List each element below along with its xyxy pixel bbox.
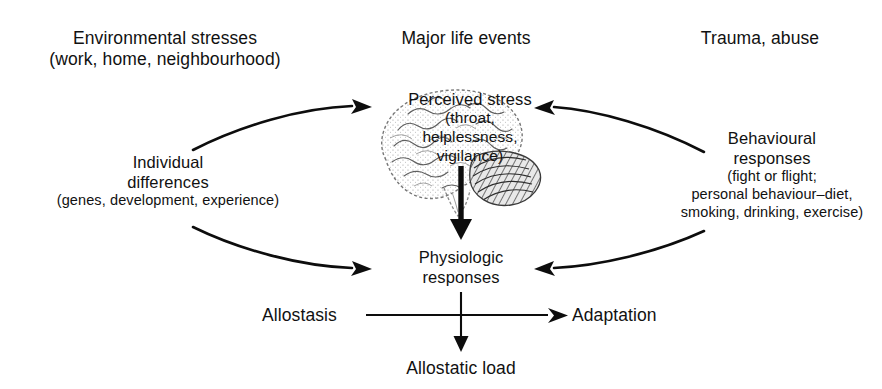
curved-arrow-right-icon xyxy=(193,99,372,150)
thick-down-arrow-icon xyxy=(450,166,472,240)
perceived-stress-label: Perceived stress (throat, helplessness, … xyxy=(408,89,532,166)
behavioural-responses-label: Behavioural responses (fight or flight; … xyxy=(681,128,864,221)
perceived-stress-line2: (throat, xyxy=(408,109,532,128)
trauma-abuse-line1: Trauma, abuse xyxy=(701,28,819,49)
curved-arrow-left-icon xyxy=(534,100,704,152)
major-life-events-line1: Major life events xyxy=(401,28,530,49)
allostatic-load-label: Allostatic load xyxy=(406,358,515,379)
perceived-stress-line3: helplessness, xyxy=(408,128,532,147)
behavioural-responses-line2: responses xyxy=(681,148,864,168)
physiologic-responses-label: Physiologic responses xyxy=(419,247,504,287)
behavioural-responses-line3: (fight or flight; xyxy=(681,168,864,186)
individual-differences-line1: Individual xyxy=(57,152,279,172)
adaptation-label: Adaptation xyxy=(572,305,657,326)
allostasis-label: Allostasis xyxy=(262,305,337,326)
down-arrow-icon xyxy=(454,292,469,352)
curved-arrow-right-icon xyxy=(193,227,372,276)
trauma-abuse-label: Trauma, abuse xyxy=(701,28,819,49)
curved-arrow-left-icon xyxy=(534,231,704,276)
individual-differences-label: Individual differences (genes, developme… xyxy=(57,152,279,210)
environmental-stresses-label: Environmental stresses (work, home, neig… xyxy=(49,28,280,71)
right-arrow-icon xyxy=(366,308,568,323)
major-life-events-label: Major life events xyxy=(401,28,530,49)
environmental-stresses-line2: (work, home, neighbourhood) xyxy=(49,49,280,70)
physiologic-responses-line2: responses xyxy=(419,267,504,287)
perceived-stress-line4: vigilance) xyxy=(408,147,532,166)
individual-differences-line2: differences xyxy=(57,172,279,192)
environmental-stresses-line1: Environmental stresses xyxy=(49,28,280,49)
individual-differences-line3: (genes, development, experience) xyxy=(57,192,279,210)
behavioural-responses-line5: smoking, drinking, exercise) xyxy=(681,204,864,222)
behavioural-responses-line4: personal behaviour–diet, xyxy=(681,186,864,204)
physiologic-responses-line1: Physiologic xyxy=(419,247,504,267)
diagram-canvas: Environmental stresses (work, home, neig… xyxy=(0,0,882,389)
behavioural-responses-line1: Behavioural xyxy=(681,128,864,148)
perceived-stress-line1: Perceived stress xyxy=(408,89,532,109)
